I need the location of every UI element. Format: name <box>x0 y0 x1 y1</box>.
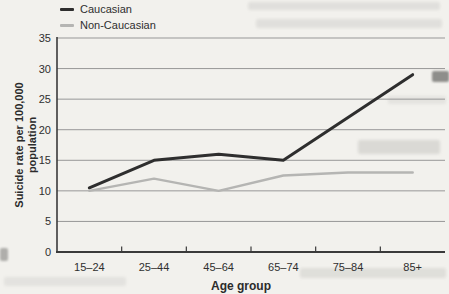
y-tick-label: 10 <box>39 185 51 197</box>
scanned-page: Caucasian Non-Caucasian Suicide rate per… <box>0 0 449 294</box>
y-tick-label: 20 <box>39 124 51 136</box>
x-tick-label: 25–44 <box>139 261 170 273</box>
x-axis-title: Age group <box>211 279 271 293</box>
y-tick-label: 35 <box>39 32 51 44</box>
y-tick-label: 25 <box>39 93 51 105</box>
x-tick-label: 15–24 <box>74 261 105 273</box>
y-tick-label: 0 <box>45 246 51 258</box>
series-line-non-caucasian <box>89 173 412 191</box>
x-tick-label: 85+ <box>403 261 422 273</box>
y-tick-label: 5 <box>45 215 51 227</box>
y-tick-label: 15 <box>39 154 51 166</box>
x-tick-label: 45–64 <box>203 261 234 273</box>
line-chart: 0510152025303515–2425–4445–6465–7475–848… <box>0 0 449 294</box>
x-tick-label: 65–74 <box>268 261 299 273</box>
x-tick-label: 75–84 <box>333 261 364 273</box>
series-line-caucasian <box>89 75 412 188</box>
y-tick-label: 30 <box>39 63 51 75</box>
